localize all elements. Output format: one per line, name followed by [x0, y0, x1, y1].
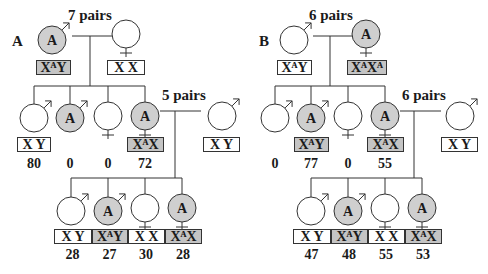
unaffected-individual-circle [297, 197, 325, 225]
allele-label: A [417, 201, 428, 216]
offspring-count: 0 [105, 156, 112, 171]
f2-individual: X Y [55, 194, 92, 244]
genotype-label: XᴬY [336, 229, 362, 244]
male-symbol-icon [358, 194, 365, 201]
genotype-label: XᴬX [132, 137, 158, 152]
f2-individual: X X [129, 194, 165, 244]
female-symbol-icon [102, 130, 114, 139]
genotype-label: X X [114, 60, 138, 75]
mate-male: X Y [204, 99, 240, 152]
offspring-count: 55 [378, 156, 392, 171]
parent-mother: X X [108, 20, 145, 75]
offspring-count: 55 [379, 247, 393, 262]
f1-offspring: 0 [334, 102, 362, 171]
unaffected-individual-circle [334, 102, 362, 130]
female-symbol-icon [342, 130, 354, 139]
male-symbol-icon [232, 99, 239, 106]
f2-offspring: X X55 [369, 194, 405, 262]
offspring-count: 53 [416, 247, 430, 262]
genotype-label: X Y [300, 229, 323, 244]
f1-offspring: 0 [261, 101, 292, 171]
f1-offspring: AXᴬY77 [295, 101, 329, 171]
offspring-count: 28 [66, 247, 80, 262]
f1-offspring: X Y80 [18, 101, 52, 171]
male-symbol-icon [321, 194, 328, 201]
allele-label: A [306, 111, 317, 126]
panel-label: B [259, 33, 269, 49]
genotype-label: XᴬX [170, 229, 196, 244]
unaffected-individual-circle [20, 104, 48, 132]
unaffected-individual-circle [112, 20, 140, 48]
f2-individual: X X [369, 194, 405, 244]
offspring-count: 77 [304, 156, 318, 171]
genotype-label: X Y [61, 229, 84, 244]
genotype-label: X Y [210, 137, 233, 152]
genotype-label: XᴬX [372, 137, 398, 152]
genotype-label: XᴬX [410, 229, 436, 244]
genotype-label: X Y [448, 137, 471, 152]
offspring-count: 0 [345, 156, 352, 171]
genotype-label: X Y [22, 137, 45, 152]
male-symbol-icon [285, 101, 292, 108]
unaffected-individual-circle [446, 102, 474, 130]
offspring-count: 28 [176, 247, 190, 262]
male-symbol-icon [80, 101, 87, 108]
pairs-count-label: 7 pairs [68, 7, 112, 23]
allele-label: A [177, 201, 188, 216]
genotype-label: XᴬY [97, 229, 123, 244]
offspring-count: 27 [103, 247, 117, 262]
f2-individual: AXᴬX [166, 194, 202, 244]
unaffected-individual-circle [94, 102, 122, 130]
f1-offspring: AXᴬX72 [128, 102, 164, 171]
pairs-count-label: 5 pairs [162, 87, 206, 103]
f2-individual: AXᴬX [406, 194, 442, 244]
male-symbol-icon [44, 101, 51, 108]
parent-father: XᴬY [278, 23, 312, 75]
f2-offspring: AXᴬX53 [406, 194, 442, 262]
offspring-count: 30 [139, 247, 153, 262]
f2-individual: X Y [294, 194, 331, 244]
female-symbol-icon [360, 48, 372, 57]
genotype-label: XᴬY [298, 137, 324, 152]
genotype-label: XᴬY [40, 60, 66, 75]
parent-father: AXᴬY [37, 23, 71, 75]
genotype-label: X X [135, 229, 159, 244]
f1-offspring: A0 [56, 101, 87, 171]
mate-male: X Y [442, 99, 478, 152]
f2-offspring: AXᴬX28 [166, 194, 202, 262]
male-symbol-icon [470, 99, 477, 106]
unaffected-individual-circle [371, 194, 399, 222]
allele-label: A [103, 204, 114, 219]
f2-offspring: AXᴬY48 [332, 194, 368, 262]
male-symbol-icon [118, 194, 125, 201]
offspring-count: 72 [138, 156, 152, 171]
unaffected-individual-circle [208, 102, 236, 130]
pairs-count-label: 6 pairs [309, 7, 353, 23]
allele-label: A [380, 109, 391, 124]
pairs-count-label: 6 pairs [402, 87, 446, 103]
f2-offspring: AXᴬY27 [93, 194, 128, 262]
male-symbol-icon [62, 23, 69, 30]
f1-offspring: AXᴬX55 [368, 102, 404, 171]
genotype-label: X X [375, 229, 399, 244]
offspring-count: 0 [272, 156, 279, 171]
f2-offspring: X Y47 [294, 194, 331, 262]
offspring-count: 48 [342, 247, 356, 262]
unaffected-individual-circle [261, 104, 289, 132]
male-symbol-icon [81, 194, 88, 201]
allele-label: A [65, 111, 76, 126]
offspring-count: 80 [27, 156, 41, 171]
genotype-label: XᴬXᴬ [351, 60, 383, 75]
f2-offspring: X X30 [129, 194, 165, 262]
male-symbol-icon [321, 101, 328, 108]
allele-label: A [47, 33, 58, 48]
f2-individual: AXᴬY [332, 194, 368, 244]
f1-offspring: 0 [94, 102, 122, 171]
male-symbol-icon [304, 23, 311, 30]
allele-label: A [140, 109, 151, 124]
allele-label: A [361, 27, 372, 42]
pedigree-canvas: A7 pairsAXᴬYX XX Y80A00AXᴬX725 pairsX YX… [0, 0, 488, 274]
unaffected-individual-circle [57, 197, 85, 225]
panel-label: A [12, 33, 23, 49]
parent-mother: AXᴬXᴬ [348, 20, 387, 75]
